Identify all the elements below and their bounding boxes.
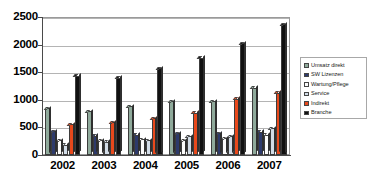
- legend-item-label: Indirekt: [311, 101, 329, 107]
- bar-top-face: [126, 105, 131, 108]
- bar: [69, 124, 74, 155]
- legend-item-label: Wartung/Pflege: [311, 82, 349, 88]
- legend-item: Indirekt: [304, 99, 364, 108]
- bar-side-face: [238, 96, 240, 152]
- bar-side-face: [61, 138, 63, 153]
- bar-side-face: [262, 129, 264, 152]
- bar: [234, 99, 239, 155]
- legend-item-label: Umsatz direkt: [311, 63, 345, 69]
- bar-top-face: [115, 76, 120, 79]
- legend-item-label: Branche: [311, 110, 332, 116]
- bar: [175, 133, 180, 155]
- bar-side-face: [226, 136, 228, 153]
- x-axis-tick-label: 2004: [125, 160, 166, 172]
- bar: [187, 136, 192, 155]
- bar: [157, 68, 162, 155]
- bars-layer: [42, 17, 290, 155]
- bar: [75, 76, 80, 155]
- bar: [57, 140, 62, 155]
- bar-side-face: [102, 138, 104, 153]
- bar-chart: 05001000150020002500 2002200320042005200…: [0, 0, 369, 185]
- bar-side-face: [55, 129, 57, 153]
- legend-item: Umsatz direkt: [304, 61, 364, 70]
- bar: [199, 58, 204, 155]
- x-axis-tick-label: 2007: [249, 160, 290, 172]
- bar-side-face: [274, 126, 276, 153]
- bar-side-face: [185, 138, 187, 153]
- bar-side-face: [73, 122, 75, 153]
- bar-top-face: [67, 123, 72, 126]
- y-axis-tick-label: 2500: [13, 11, 38, 23]
- bar-top-face: [209, 100, 214, 103]
- bar-top-face: [85, 110, 90, 113]
- bar: [281, 24, 286, 155]
- bar: [63, 145, 68, 155]
- x-axis-tick-label: 2005: [166, 160, 207, 172]
- bar-top-face: [191, 111, 196, 114]
- bar-side-face: [256, 85, 258, 152]
- legend-swatch-icon: [304, 73, 309, 78]
- y-axis-tick-label: 1000: [13, 94, 38, 106]
- bar: [45, 108, 50, 155]
- bar: [181, 140, 186, 155]
- bar: [134, 135, 139, 155]
- bar-side-face: [150, 138, 152, 153]
- bar: [193, 113, 198, 156]
- bar-side-face: [91, 109, 93, 153]
- x-axis-tick-label: 2002: [42, 160, 83, 172]
- y-axis-tick-label: 500: [19, 121, 38, 133]
- bar: [51, 131, 56, 155]
- bar: [128, 106, 133, 155]
- bar: [87, 111, 92, 155]
- legend-item: SW Lizenzen: [304, 70, 364, 79]
- legend: Umsatz direktSW LizenzenWartung/PflegeSe…: [300, 57, 367, 119]
- bar-side-face: [197, 110, 199, 153]
- bar-side-face: [161, 66, 163, 153]
- legend-swatch-icon: [304, 82, 309, 87]
- bar: [98, 140, 103, 155]
- bar: [228, 136, 233, 155]
- bar: [116, 78, 121, 155]
- bar-side-face: [232, 134, 234, 153]
- bar-side-face: [268, 132, 270, 152]
- bar: [110, 122, 115, 155]
- bar: [252, 88, 257, 155]
- legend-swatch-icon: [304, 63, 309, 68]
- bar: [140, 139, 145, 155]
- bar-side-face: [120, 75, 122, 152]
- legend-swatch-icon: [304, 111, 309, 116]
- y-axis-tick-label: 1500: [13, 66, 38, 78]
- bar-side-face: [191, 134, 193, 153]
- bar: [104, 142, 109, 155]
- bar-top-face: [197, 56, 202, 59]
- legend-swatch-icon: [304, 101, 309, 106]
- bar: [222, 138, 227, 155]
- bar-top-face: [250, 86, 255, 89]
- bar-side-face: [203, 55, 205, 152]
- bar: [264, 135, 269, 155]
- legend-swatch-icon: [304, 92, 309, 97]
- bar-side-face: [244, 41, 246, 153]
- bar-top-face: [185, 135, 190, 138]
- bar-side-face: [144, 137, 146, 153]
- legend-item: Wartung/Pflege: [304, 80, 364, 89]
- legend-item-label: Service: [311, 91, 329, 97]
- legend-item-label: SW Lizenzen: [311, 72, 343, 78]
- bar-side-face: [215, 99, 217, 153]
- bar: [169, 101, 174, 155]
- bar-side-face: [114, 119, 116, 152]
- x-axis-tick-label: 2003: [83, 160, 124, 172]
- bar-top-face: [268, 127, 273, 130]
- bar-top-face: [73, 74, 78, 77]
- bar-top-face: [239, 42, 244, 45]
- bar: [240, 43, 245, 155]
- bar: [146, 140, 151, 155]
- bar-side-face: [132, 104, 134, 153]
- bar-side-face: [49, 106, 51, 153]
- legend-item: Service: [304, 89, 364, 98]
- legend-item: Branche: [304, 108, 364, 117]
- bar: [258, 132, 263, 155]
- bar-side-face: [285, 22, 287, 153]
- bar-side-face: [79, 73, 81, 152]
- x-axis-tick-label: 2006: [207, 160, 248, 172]
